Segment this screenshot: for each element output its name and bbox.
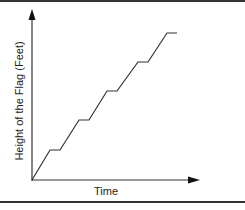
y-axis-arrow-icon — [29, 9, 36, 20]
flag-height-line — [32, 33, 177, 180]
x-axis-label: Time — [94, 185, 118, 197]
bottom-border — [0, 201, 245, 203]
y-axis-label: Height of the Flag (Feet) — [13, 41, 25, 160]
x-axis-arrow-icon — [188, 177, 200, 184]
line-chart — [0, 0, 245, 210]
